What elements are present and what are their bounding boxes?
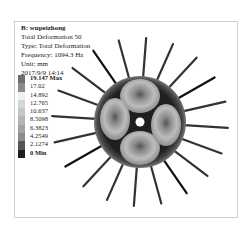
- blade: [151, 165, 162, 204]
- blade: [163, 159, 186, 193]
- blade: [58, 91, 99, 106]
- legend-swatch: [18, 150, 25, 158]
- legend-swatch: [18, 125, 25, 133]
- info-line: Total Deformation 50: [21, 33, 90, 42]
- blade: [174, 150, 208, 176]
- blade: [55, 133, 98, 143]
- blade: [156, 44, 172, 81]
- legend-swatch: [18, 75, 25, 83]
- blade: [134, 166, 137, 206]
- legend-value: 6.3823: [30, 124, 48, 131]
- blade: [184, 125, 228, 128]
- legend-value: 14.892: [30, 91, 48, 98]
- legend-value: 2.1274: [30, 140, 48, 147]
- legend-swatch: [18, 108, 25, 116]
- result-info: B: wupeizhong Total Deformation 50 Type:…: [21, 24, 90, 78]
- info-line: Frequency: 1094.3 Hz: [21, 51, 90, 60]
- legend-value: 8.5098: [30, 115, 48, 122]
- blade: [183, 102, 226, 112]
- center-hole: [136, 118, 145, 127]
- blade: [52, 116, 96, 119]
- blade: [65, 145, 102, 166]
- legend-swatch: [18, 83, 25, 91]
- legend-swatch: [18, 92, 25, 100]
- blade: [168, 58, 196, 89]
- info-line: Type: Total Deformation: [21, 42, 90, 51]
- blade: [177, 77, 214, 98]
- legend-swatch: [18, 116, 25, 124]
- legend-value: 0 Min: [30, 149, 46, 156]
- blade: [83, 156, 111, 187]
- blade: [181, 138, 222, 153]
- legend-value: 12.765: [30, 99, 48, 106]
- legend-swatch: [18, 100, 25, 108]
- legend-swatch: [18, 141, 25, 149]
- legend-value: 4.2549: [30, 132, 48, 139]
- blade: [143, 38, 146, 78]
- info-line: Unit: mm: [21, 60, 90, 69]
- blade: [93, 51, 116, 85]
- legend-value: 17.02: [30, 82, 45, 89]
- blade: [119, 40, 130, 79]
- legend-value: 19.147 Max: [30, 74, 62, 81]
- blade: [107, 163, 123, 200]
- legend-value: 10.637: [30, 107, 48, 114]
- result-title: B: wupeizhong: [21, 24, 90, 33]
- legend-swatch: [18, 133, 25, 141]
